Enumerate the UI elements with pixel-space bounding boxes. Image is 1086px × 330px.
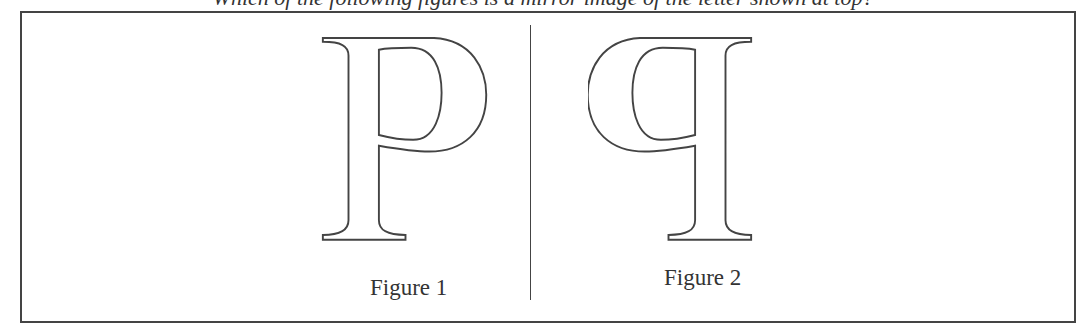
figure-2-caption: Figure 2	[664, 265, 741, 291]
figure-1-caption: Figure 1	[370, 275, 447, 301]
figure-divider	[530, 25, 531, 300]
figure-1-letter-p	[320, 34, 490, 244]
figure-frame	[20, 11, 1076, 323]
figure-2-mirrored-letter-p	[588, 34, 758, 244]
cut-off-heading: Which of the following figures is a mirr…	[0, 0, 1086, 11]
